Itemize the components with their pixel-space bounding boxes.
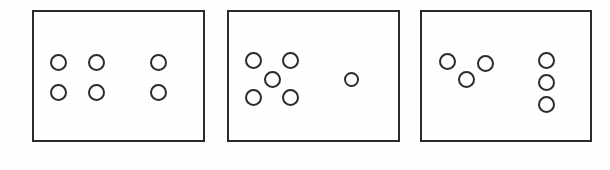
figure-canvas (0, 0, 610, 170)
panel-frame (420, 10, 592, 142)
panel-frame (32, 10, 205, 142)
panel-frame (227, 10, 400, 142)
